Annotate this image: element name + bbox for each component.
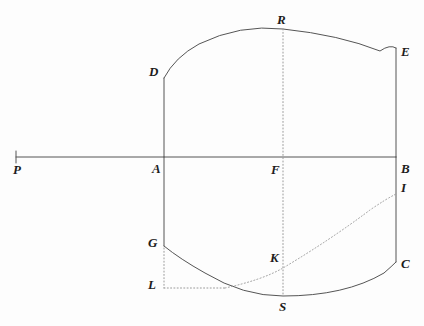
geometry-figure: PABFDERGCSLKI — [0, 0, 424, 326]
point-label-p: P — [13, 163, 21, 176]
solid-lines-group — [16, 28, 396, 296]
point-label-i: I — [401, 181, 406, 194]
lower-arc-GSC — [164, 246, 396, 296]
point-label-f: F — [271, 163, 280, 176]
point-label-r: R — [277, 13, 286, 26]
point-label-s: S — [279, 300, 286, 313]
figure-canvas — [0, 0, 424, 326]
point-label-b: B — [401, 162, 410, 175]
point-label-c: C — [401, 257, 410, 270]
curve-LKI — [225, 194, 396, 288]
point-label-k: K — [270, 251, 279, 264]
dotted-lines-group — [164, 29, 396, 296]
point-label-e: E — [401, 45, 410, 58]
point-label-l: L — [148, 278, 156, 291]
point-label-d: D — [149, 65, 158, 78]
point-label-a: A — [152, 162, 161, 175]
point-label-g: G — [148, 236, 157, 249]
upper-arc-DRE — [164, 28, 396, 78]
